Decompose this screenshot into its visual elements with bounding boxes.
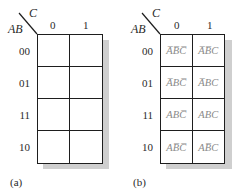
col-label-1: 1	[83, 19, 89, 31]
row-label-11: 11	[131, 109, 153, 121]
karnaugh-map-a: C AB 0 1 00 01 11 10 (a)	[0, 0, 120, 193]
col-variable-label: C	[29, 6, 37, 21]
row-label-10: 10	[131, 141, 153, 153]
cell-01-1: A̅BC	[193, 67, 225, 99]
cell-11-1: ABC	[193, 99, 225, 131]
cell-10-0: AB̅C̅	[161, 131, 193, 163]
cell-01-0: A̅BC̅	[161, 67, 193, 99]
cell-00-0: A̅B̅C̅	[161, 35, 193, 67]
cell-11-0: ABC̅	[161, 99, 193, 131]
row-label-01: 01	[131, 77, 153, 89]
row-label-00: 00	[131, 45, 153, 57]
cell-01-0	[38, 67, 70, 99]
kmap-grid	[37, 34, 103, 164]
cell-10-0	[38, 131, 70, 163]
caption-a: (a)	[10, 176, 22, 188]
cell-10-1: AB̅C	[193, 131, 225, 163]
row-variable-label: AB	[131, 22, 146, 37]
kmap-grid: A̅B̅C̅ A̅B̅C A̅BC̅ A̅BC ABC̅ ABC AB̅C̅ A…	[160, 34, 225, 164]
col-label-0: 0	[174, 19, 180, 31]
row-label-11: 11	[8, 109, 30, 121]
row-label-01: 01	[8, 77, 30, 89]
caption-b: (b)	[133, 176, 146, 188]
row-label-10: 10	[8, 141, 30, 153]
row-label-00: 00	[8, 45, 30, 57]
cell-11-1	[70, 99, 102, 131]
cell-10-1	[70, 131, 102, 163]
karnaugh-map-b: C AB 0 1 00 01 11 10 A̅B̅C̅ A̅B̅C A̅BC̅ …	[123, 0, 239, 193]
row-variable-label: AB	[8, 22, 23, 37]
col-variable-label: C	[152, 6, 160, 21]
cell-00-0	[38, 35, 70, 67]
cell-01-1	[70, 67, 102, 99]
col-label-0: 0	[50, 19, 56, 31]
cell-00-1: A̅B̅C	[193, 35, 225, 67]
col-label-1: 1	[207, 19, 213, 31]
cell-00-1	[70, 35, 102, 67]
cell-11-0	[38, 99, 70, 131]
